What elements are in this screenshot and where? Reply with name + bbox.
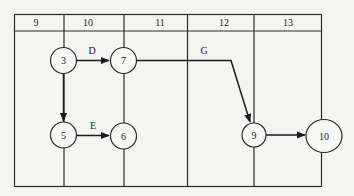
node-10-label: 10 [319, 131, 329, 142]
time-label-12: 12 [219, 17, 229, 28]
node-6-label: 6 [121, 131, 126, 142]
node-9-label: 9 [252, 130, 257, 141]
node-7-label: 7 [121, 55, 126, 66]
edge-label-e: E [90, 120, 96, 131]
node-5-label: 5 [61, 130, 66, 141]
edge-7-9 [136, 61, 250, 123]
grid-frame [15, 15, 322, 187]
time-label-11: 11 [155, 17, 165, 28]
edge-label-g: G [200, 45, 207, 56]
edge-label-d: D [88, 45, 95, 56]
node-3-label: 3 [61, 55, 66, 66]
time-label-9: 9 [34, 17, 39, 28]
network-diagram: 9 10 11 12 13 D E G 3 7 5 6 9 10 [0, 0, 354, 196]
time-label-13: 13 [283, 17, 293, 28]
time-label-10: 10 [83, 17, 93, 28]
